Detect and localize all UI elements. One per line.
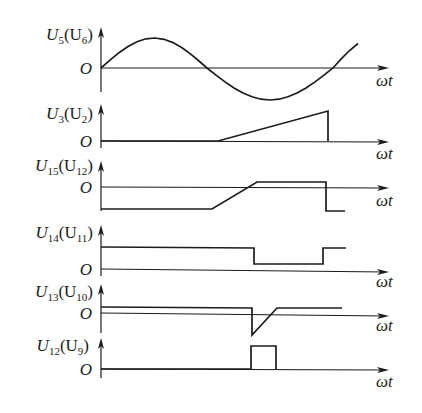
waveform-diagram: U5(U6) O ωt U3(U2) O ωt U15(U12) xyxy=(0,0,422,413)
x-axis-label: ωt xyxy=(376,144,394,163)
x-axis-label: ωt xyxy=(376,316,394,335)
x-axis-label: ωt xyxy=(376,372,394,391)
origin-label: O xyxy=(80,360,92,379)
origin-label: O xyxy=(80,59,92,78)
origin-label: O xyxy=(80,304,92,323)
origin-label: O xyxy=(80,132,92,151)
origin-label: O xyxy=(80,260,92,279)
x-axis-label: ωt xyxy=(376,191,394,210)
origin-label: O xyxy=(80,178,92,197)
x-axis-label: ωt xyxy=(376,272,394,291)
x-axis-label: ωt xyxy=(376,71,394,90)
